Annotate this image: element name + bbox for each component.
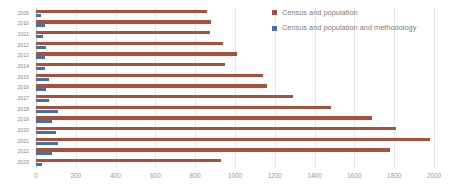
bar-row	[36, 72, 434, 83]
bar-row	[36, 51, 434, 62]
bar-secondary[interactable]	[36, 110, 58, 113]
value-axis-tick-label: 1000	[228, 173, 242, 179]
category-label: 2019	[17, 117, 29, 122]
bar-primary[interactable]	[36, 148, 390, 151]
bar-chart: 2009201020112012201320142015201620172018…	[0, 0, 458, 196]
bar-secondary[interactable]	[36, 35, 43, 38]
value-axis-tick-label: 800	[190, 173, 201, 179]
bar-secondary[interactable]	[36, 46, 46, 49]
bar-primary[interactable]	[36, 138, 430, 141]
bar-row	[36, 83, 434, 94]
category-label: 2023	[17, 160, 29, 165]
value-axis-tick-label: 1200	[268, 173, 282, 179]
bar-secondary[interactable]	[36, 56, 45, 59]
bar-primary[interactable]	[36, 159, 221, 162]
value-axis-tick-label: 400	[110, 173, 121, 179]
category-label: 2012	[17, 43, 29, 48]
value-axis-tick-label: 600	[150, 173, 161, 179]
bar-primary[interactable]	[36, 10, 207, 13]
bar-row	[36, 157, 434, 168]
bar-row	[36, 115, 434, 126]
category-label: 2010	[17, 21, 29, 26]
legend-label: Census and population and methodology	[282, 24, 416, 31]
bar-primary[interactable]	[36, 63, 225, 66]
bar-secondary[interactable]	[36, 163, 42, 166]
bar-row	[36, 61, 434, 72]
bar-secondary[interactable]	[36, 131, 56, 134]
bar-secondary[interactable]	[36, 120, 52, 123]
legend-item[interactable]: Census and population and methodology	[272, 24, 454, 31]
category-label: 2013	[17, 53, 29, 58]
bar-primary[interactable]	[36, 74, 263, 77]
bar-row	[36, 104, 434, 115]
bar-primary[interactable]	[36, 42, 223, 45]
category-label: 2016	[17, 85, 29, 90]
bar-secondary[interactable]	[36, 78, 49, 81]
value-axis: 0200400600800100012001400160018002000	[36, 168, 434, 184]
category-axis-labels: 2009201020112012201320142015201620172018…	[0, 8, 33, 168]
value-axis-tick-label: 1800	[387, 173, 401, 179]
bar-secondary[interactable]	[36, 99, 49, 102]
bar-secondary[interactable]	[36, 14, 41, 17]
category-label: 2018	[17, 107, 29, 112]
legend-label: Census and population	[282, 9, 358, 16]
category-label: 2021	[17, 139, 29, 144]
bar-primary[interactable]	[36, 127, 396, 130]
category-label: 2011	[18, 32, 29, 37]
value-axis-tick-label: 2000	[427, 173, 441, 179]
bar-secondary[interactable]	[36, 142, 58, 145]
value-axis-tick-label: 1600	[347, 173, 361, 179]
value-axis-tick-label: 1400	[307, 173, 321, 179]
chart-legend: Census and populationCensus and populati…	[272, 9, 454, 40]
category-label: 2015	[17, 75, 29, 80]
bar-primary[interactable]	[36, 106, 331, 109]
bar-primary[interactable]	[36, 20, 211, 23]
legend-swatch-census-and-population	[272, 10, 277, 15]
value-axis-tick-label: 200	[70, 173, 81, 179]
bar-secondary[interactable]	[36, 24, 45, 27]
bar-row	[36, 40, 434, 51]
bar-primary[interactable]	[36, 116, 372, 119]
bar-secondary[interactable]	[36, 88, 46, 91]
category-label: 2022	[17, 149, 29, 154]
legend-swatch-census-and-population-and-methodology	[272, 26, 277, 31]
category-label: 2009	[17, 11, 29, 16]
legend-item[interactable]: Census and population	[272, 9, 454, 16]
bar-primary[interactable]	[36, 31, 210, 34]
bar-primary[interactable]	[36, 95, 293, 98]
bar-primary[interactable]	[36, 84, 267, 87]
bar-row	[36, 136, 434, 147]
bar-secondary[interactable]	[36, 152, 52, 155]
bar-primary[interactable]	[36, 52, 237, 55]
category-label: 2017	[17, 96, 29, 101]
category-label: 2014	[17, 64, 29, 69]
bar-row	[36, 125, 434, 136]
bar-row	[36, 93, 434, 104]
bar-row	[36, 147, 434, 158]
category-label: 2020	[17, 128, 29, 133]
value-axis-tick-label: 0	[34, 173, 38, 179]
bar-secondary[interactable]	[36, 67, 45, 70]
